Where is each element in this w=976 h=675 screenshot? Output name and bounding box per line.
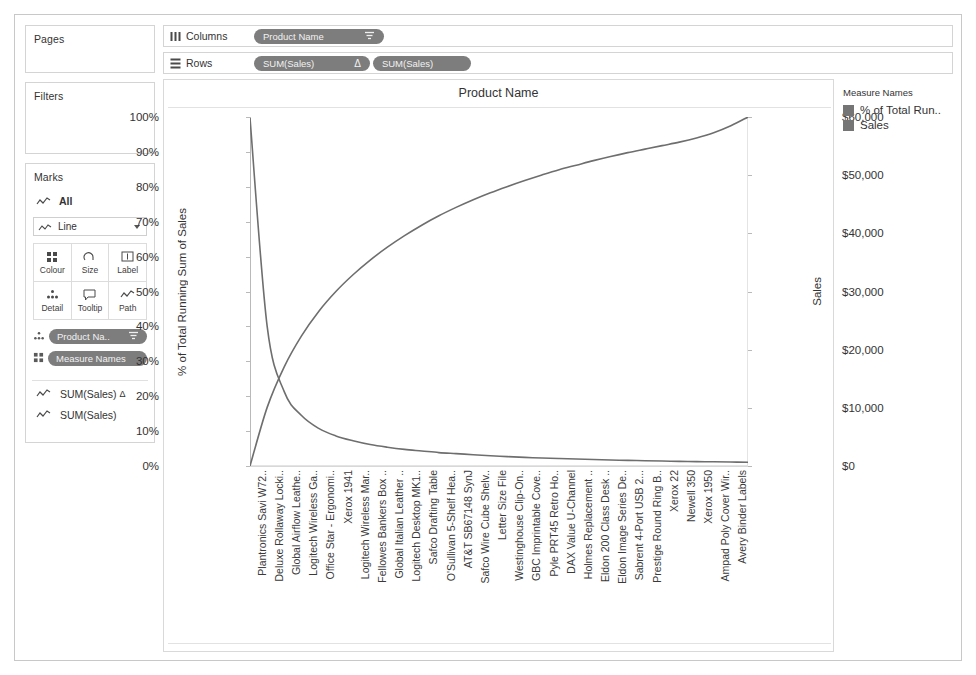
x-axis-bottom-divider: [168, 643, 831, 644]
legend-item[interactable]: Sales: [843, 119, 955, 131]
y-tick-left: 0%: [103, 460, 159, 472]
y-tick-mark-right: [748, 233, 752, 234]
y-tick-mark-right: [748, 117, 752, 118]
legend-swatch: [843, 120, 854, 131]
x-tick-label: Letter Size File: [490, 470, 507, 638]
y-tick-right: $40,000: [842, 227, 912, 239]
y-tick-left: 90%: [103, 146, 159, 158]
columns-shelf[interactable]: Columns Product Name: [163, 25, 953, 47]
legend-items: % of Total Run..Sales: [843, 104, 955, 131]
legend-label: % of Total Run..: [860, 104, 941, 116]
y-tick-left: 30%: [103, 355, 159, 367]
filters-title: Filters: [26, 83, 154, 108]
x-tick-label: Sabrent 4-Port USB 2...: [628, 470, 645, 638]
line-mark-icon: [36, 409, 51, 421]
marks-detail-button[interactable]: Detail: [34, 282, 72, 320]
line-mark-icon: [36, 192, 51, 210]
rows-icon: [164, 58, 186, 69]
x-axis-labels: Plantronics Savi W72..Deluxe Rollaway Lo…: [250, 470, 748, 642]
shelf-pill-product-name[interactable]: Product Name: [254, 29, 384, 44]
pages-title: Pages: [26, 26, 154, 51]
pill-label: Product Na..: [57, 331, 110, 342]
y-tick-left: 10%: [103, 425, 159, 437]
x-tick-label: Xerox 1941: [336, 470, 353, 638]
marks-detail-label: Detail: [41, 303, 63, 313]
y-tick-mark-right: [748, 466, 752, 467]
tableau-worksheet: Pages Filters Marks All Line: [14, 14, 962, 661]
x-tick-label: Global Airflow Leathe..: [284, 470, 301, 638]
size-icon: [83, 250, 96, 263]
legend-title: Measure Names: [843, 87, 955, 98]
x-tick-label: Xerox 22: [662, 470, 679, 638]
chart-title: Product Name: [164, 86, 833, 100]
marks-all-label: All: [59, 195, 72, 207]
x-tick-label: Safco Wire Cube Shelv..: [473, 470, 490, 638]
pill-label: SUM(Sales): [382, 58, 433, 69]
x-tick-label: Xerox 1950: [696, 470, 713, 638]
x-tick-label: Fellowes Bankers Box ..: [370, 470, 387, 638]
x-tick-label: GBC Imprintable Cove..: [525, 470, 542, 638]
x-tick-label: Pyle PRT45 Retro Ho..: [542, 470, 559, 638]
y-tick-mark-right: [748, 175, 752, 176]
x-tick-label: Holmes Replacement ..: [576, 470, 593, 638]
delta-icon: Δ: [354, 58, 361, 69]
x-tick-label: Prestige Round Ring B..: [645, 470, 662, 638]
legend-swatch: [843, 105, 854, 116]
pill-label: Product Name: [263, 31, 324, 42]
marks-size-label: Size: [82, 265, 99, 275]
marks-tooltip-label: Tooltip: [78, 303, 103, 313]
visualization-panel: Product Name % of Total Running Sum of S…: [163, 79, 834, 652]
shelf-pill-sum-sales-delta[interactable]: SUM(Sales) Δ: [254, 56, 370, 71]
left-shelf-column: Pages Filters Marks All Line: [25, 25, 155, 452]
y-axis-right-title: Sales: [809, 117, 825, 466]
marks-colour-button[interactable]: Colour: [34, 244, 72, 282]
marks-path-label: Path: [119, 303, 137, 313]
x-tick-label: Logitech Wireless Mar..: [353, 470, 370, 638]
columns-label: Columns: [186, 30, 254, 42]
x-tick-label: Logitech Desktop MK1..: [405, 470, 422, 638]
y-tick-right: $0: [842, 460, 912, 472]
marks-colour-label: Colour: [40, 265, 65, 275]
x-tick-label: Logitech Wireless Ga..: [302, 470, 319, 638]
y-tick-left: 40%: [103, 320, 159, 332]
x-axis-divider: [250, 466, 748, 467]
y-tick-left: 60%: [103, 251, 159, 263]
shelf-pill-sum-sales[interactable]: SUM(Sales): [373, 56, 471, 71]
line-mark-icon: [36, 388, 51, 400]
sort-icon[interactable]: [364, 31, 375, 42]
y-tick-mark-right: [748, 350, 752, 351]
x-tick-label: Westinghouse Clip-On..: [508, 470, 525, 638]
y-tick-left: 80%: [103, 181, 159, 193]
chart-line: [250, 117, 748, 466]
x-tick-label: Office Star - Ergonomi..: [319, 470, 336, 638]
marks-measure-sum-sales[interactable]: SUM(Sales): [26, 402, 154, 423]
y-tick-right: $50,000: [842, 169, 912, 181]
chart-lines: [250, 117, 748, 466]
x-tick-label: Eldon Image Series De..: [611, 470, 628, 638]
pages-card[interactable]: Pages: [25, 25, 155, 73]
x-tick-label: O'Sullivan 5-Shelf Hea..: [439, 470, 456, 638]
x-tick-label: Plantronics Savi W72..: [250, 470, 267, 638]
y-axis-left-title: % of Total Running Sum of Sales: [174, 117, 190, 466]
marks-label-label: Label: [117, 265, 138, 275]
measure-names-legend: Measure Names % of Total Run..Sales: [843, 87, 955, 134]
legend-item[interactable]: % of Total Run..: [843, 104, 955, 116]
x-tick-label: Ampad Poly Cover Wir..: [714, 470, 731, 638]
x-tick-label: Avery Binder Labels: [731, 470, 748, 638]
y-tick-left: 70%: [103, 216, 159, 228]
colour-icon: [33, 349, 44, 367]
title-divider: [168, 107, 831, 108]
rows-shelf[interactable]: Rows SUM(Sales) Δ SUM(Sales): [163, 52, 953, 74]
y-tick-right: $30,000: [842, 286, 912, 298]
chart-line: [250, 118, 748, 462]
x-tick-label: Deluxe Rollaway Locki..: [267, 470, 284, 638]
plot-area: 0%10%20%30%40%50%60%70%80%90%100% $0$10,…: [250, 117, 748, 466]
line-type-icon: [38, 218, 52, 236]
y-tick-mark-right: [748, 408, 752, 409]
tooltip-icon: [83, 288, 96, 301]
x-tick-label: Eldon 200 Class Desk ..: [593, 470, 610, 638]
x-tick-label: DAX Value U-Channel: [559, 470, 576, 638]
marks-all-row[interactable]: All: [26, 189, 154, 217]
y-tick-left: 20%: [103, 390, 159, 402]
measure-label: SUM(Sales): [60, 409, 117, 421]
